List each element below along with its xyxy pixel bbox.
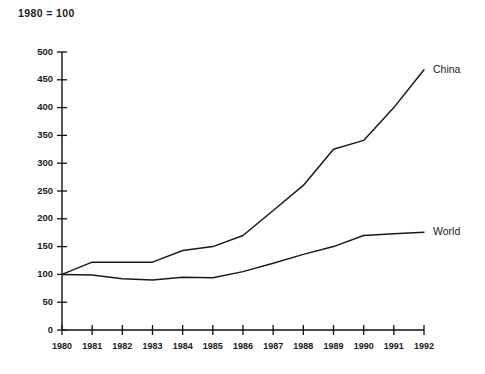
x-axis-tick-label: 1988 [286, 341, 320, 351]
x-axis-tick-label: 1992 [407, 341, 441, 351]
x-axis-tick-label: 1983 [136, 341, 170, 351]
chart-container: 1980 = 100 05010015020025030035040045050… [0, 0, 485, 374]
x-axis-tick-label: 1991 [377, 341, 411, 351]
y-axis-tick-label: 450 [19, 73, 53, 84]
x-axis-tick-label: 1990 [347, 341, 381, 351]
chart-plot-area [0, 0, 485, 374]
series-label-china: China [433, 63, 460, 75]
y-axis-tick-label: 300 [19, 157, 53, 168]
series-line-world [62, 232, 424, 280]
y-axis-tick-label: 150 [19, 240, 53, 251]
x-axis-tick-label: 1984 [166, 341, 200, 351]
y-axis-tick-label: 0 [19, 324, 53, 335]
y-axis-tick-label: 350 [19, 129, 53, 140]
series-line-china [62, 70, 424, 275]
y-axis-tick-label: 500 [19, 46, 53, 57]
x-axis-tick-label: 1981 [75, 341, 109, 351]
x-axis-tick-label: 1986 [226, 341, 260, 351]
x-axis-tick-label: 1980 [45, 341, 79, 351]
y-axis-tick-label: 200 [19, 212, 53, 223]
series-label-world: World [433, 225, 460, 237]
y-axis-tick-label: 250 [19, 185, 53, 196]
x-axis-tick-label: 1989 [317, 341, 351, 351]
chart-series-lines [62, 70, 424, 280]
y-axis-tick-label: 100 [19, 268, 53, 279]
x-axis-tick-label: 1987 [256, 341, 290, 351]
x-axis-tick-label: 1982 [105, 341, 139, 351]
y-axis-tick-label: 50 [19, 296, 53, 307]
y-axis-tick-label: 400 [19, 101, 53, 112]
x-axis-tick-label: 1985 [196, 341, 230, 351]
